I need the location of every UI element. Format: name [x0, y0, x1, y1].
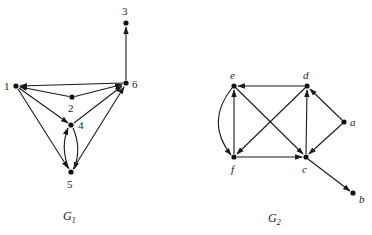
- node-4: [68, 122, 73, 127]
- label-node-b: b: [359, 193, 365, 205]
- node-b: [350, 190, 355, 195]
- edge-c-to-d: [306, 90, 307, 154]
- node-f: [231, 154, 236, 159]
- directed-graphs-figure: 1 2 3 4 5 6 G1: [0, 0, 372, 235]
- edge-2-to-6: [75, 85, 122, 97]
- edge-e-to-c: [236, 88, 303, 154]
- edge-d-to-f: [237, 88, 305, 154]
- g1-nodes: [13, 20, 128, 174]
- label-node-3: 3: [122, 5, 128, 17]
- edge-c-to-b: [308, 159, 350, 191]
- edge-e-to-f: [218, 88, 232, 155]
- label-node-4: 4: [78, 119, 84, 131]
- node-6: [123, 80, 128, 85]
- edge-1-to-4: [19, 88, 68, 123]
- node-1: [13, 83, 18, 88]
- caption-g2: G2: [268, 211, 281, 227]
- node-d: [304, 83, 309, 88]
- node-c: [303, 154, 308, 159]
- label-node-2: 2: [68, 102, 74, 114]
- edge-a-to-c: [309, 124, 342, 154]
- node-3: [123, 20, 128, 25]
- label-node-5: 5: [67, 178, 73, 190]
- edge-6-to-1: [20, 83, 123, 86]
- label-node-d: d: [303, 69, 309, 81]
- label-node-a: a: [350, 116, 356, 128]
- graph-g1: 1 2 3 4 5 6 G1: [4, 5, 138, 225]
- edge-a-to-d: [310, 89, 342, 120]
- node-e: [231, 83, 236, 88]
- label-node-1: 1: [4, 80, 10, 92]
- caption-g1: G1: [63, 209, 76, 225]
- g2-nodes: [231, 83, 355, 195]
- node-2: [69, 94, 74, 99]
- label-node-c: c: [302, 163, 307, 175]
- edge-4-to-6: [74, 86, 122, 123]
- graph-g2: e d a f c b G2: [218, 69, 365, 227]
- g2-labels: e d a f c b: [230, 69, 365, 205]
- label-node-f: f: [231, 163, 236, 175]
- edge-1-to-5: [18, 89, 68, 168]
- label-node-6: 6: [132, 78, 138, 90]
- node-5: [68, 169, 73, 174]
- edge-2-to-1: [20, 87, 69, 97]
- g2-edges: [218, 86, 350, 191]
- node-a: [341, 119, 346, 124]
- label-node-e: e: [230, 69, 235, 81]
